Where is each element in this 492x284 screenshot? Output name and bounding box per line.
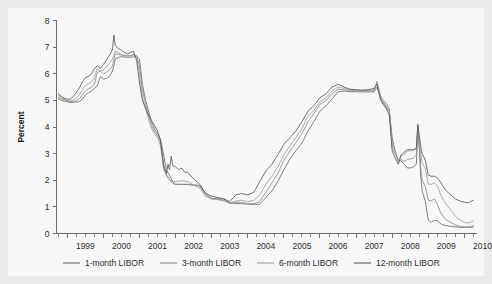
y-tick-label: 4 xyxy=(45,122,50,132)
legend-label-2: 3-month LIBOR xyxy=(182,258,241,268)
x-tick-label: 2007 xyxy=(365,241,384,251)
x-tick-label: 2002 xyxy=(184,241,203,251)
y-tick-label: 5 xyxy=(45,95,50,105)
chart-figure: 0123456781999200020012002200320042005200… xyxy=(0,0,492,284)
legend-label-3: 6-month LIBOR xyxy=(279,258,338,268)
legend-label-4: 12-month LIBOR xyxy=(376,258,440,268)
x-tick-label: 1999 xyxy=(76,241,95,251)
y-tick-label: 8 xyxy=(45,16,50,26)
legend-label-1: 1-month LIBOR xyxy=(85,258,144,268)
x-tick-label: 2008 xyxy=(401,241,420,251)
x-tick-label: 2004 xyxy=(256,241,275,251)
x-tick-label: 2005 xyxy=(292,241,311,251)
y-tick-label: 3 xyxy=(45,149,50,159)
series-line-2 xyxy=(58,54,473,227)
x-tick-label: 2010 xyxy=(473,241,492,251)
x-tick-label: 2003 xyxy=(220,241,239,251)
series-line-4 xyxy=(58,35,473,203)
x-tick-label: 2006 xyxy=(329,241,348,251)
x-tick-label: 2000 xyxy=(112,241,131,251)
y-tick-label: 0 xyxy=(45,229,50,239)
libor-line-chart: 0123456781999200020012002200320042005200… xyxy=(0,0,492,284)
y-tick-label: 2 xyxy=(45,175,50,185)
x-tick-label: 2009 xyxy=(437,241,456,251)
x-tick-label: 2001 xyxy=(148,241,167,251)
y-tick-label: 6 xyxy=(45,69,50,79)
series-line-1 xyxy=(58,56,473,227)
y-tick-label: 1 xyxy=(45,202,50,212)
y-axis-title: Percent xyxy=(16,111,26,142)
y-tick-label: 7 xyxy=(45,42,50,52)
